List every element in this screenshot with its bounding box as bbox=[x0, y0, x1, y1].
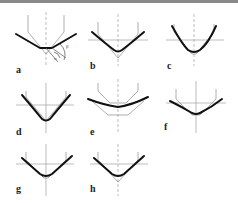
panel-h: h bbox=[84, 140, 156, 196]
v-curve-diagram-f bbox=[160, 77, 232, 133]
panel-g: g bbox=[10, 140, 82, 196]
panel-c: c bbox=[158, 10, 230, 66]
panel-label-e: e bbox=[90, 127, 94, 137]
v-curve-diagram-d bbox=[10, 77, 82, 133]
panel-label-b: b bbox=[90, 61, 96, 71]
v-curve-diagram-e bbox=[84, 77, 156, 133]
v-curve-diagram-c bbox=[158, 10, 230, 66]
annotation-beta: β bbox=[66, 44, 69, 49]
v-curve-diagram-b bbox=[84, 10, 156, 66]
panel-label-h: h bbox=[90, 184, 96, 194]
panel-label-a: a bbox=[16, 65, 21, 75]
panel-label-f: f bbox=[164, 122, 167, 132]
panel-d: d bbox=[10, 77, 82, 133]
panel-e: e bbox=[84, 77, 156, 133]
panel-label-g: g bbox=[16, 184, 21, 194]
panel-b: b bbox=[84, 10, 156, 66]
panel-a: β α a bbox=[10, 10, 82, 66]
panel-label-d: d bbox=[16, 127, 22, 137]
annotation-alpha: α bbox=[54, 56, 57, 61]
panel-label-c: c bbox=[167, 61, 171, 71]
top-border bbox=[0, 0, 238, 3]
panel-f: f bbox=[160, 77, 232, 133]
v-curve-diagram-a: β α bbox=[10, 10, 82, 66]
